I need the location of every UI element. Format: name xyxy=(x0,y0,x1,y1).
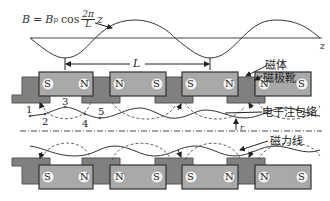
bottom-pole-letter: N xyxy=(80,172,89,182)
z-axis-label: z xyxy=(320,42,325,51)
top-pole-letter: N xyxy=(115,79,124,89)
formula-eq: = xyxy=(33,13,42,26)
path-point-label: 4 xyxy=(82,118,88,129)
top-pole-letter: S xyxy=(187,79,194,89)
bottom-pole-letter: S xyxy=(44,172,51,182)
formula-fraction: 2π L xyxy=(81,10,95,30)
formula-lhs: B xyxy=(22,13,30,26)
lower-field-arrows xyxy=(40,150,252,158)
field-formula: B = B p cos 2π L z xyxy=(22,10,103,30)
formula-var: z xyxy=(97,13,103,26)
pole-shoe-label: 磁极靴 xyxy=(263,73,296,84)
field-lines-label: 磁力线 xyxy=(270,136,303,147)
period-label: L xyxy=(133,58,140,69)
formula-amp-sub: p xyxy=(53,16,57,24)
top-pole-letter: N xyxy=(80,79,89,89)
top-pole-letter: S xyxy=(298,79,305,89)
beam-envelope-leader xyxy=(225,112,262,113)
top-pole-letter: S xyxy=(153,79,160,89)
path-point-label: 2 xyxy=(42,116,48,127)
bottom-pole-letter: S xyxy=(187,172,194,182)
bottom-pole-letter: S xyxy=(298,172,305,182)
path-points xyxy=(29,106,102,120)
top-pole-letter: S xyxy=(44,79,51,89)
formula-amp: B xyxy=(45,13,53,26)
formula-frac-den: L xyxy=(85,20,91,29)
path-point-label: 3 xyxy=(62,96,68,107)
bottom-pole-letter: N xyxy=(225,172,234,182)
bottom-pole-letter: S xyxy=(153,172,160,182)
top-pole-letter: N xyxy=(225,79,234,89)
bottom-pole-letter: N xyxy=(115,172,124,182)
radius-label: r xyxy=(240,124,244,132)
bottom-pole-letter: N xyxy=(260,172,269,182)
path-point-label: 5 xyxy=(98,106,104,117)
magnet-label: 磁体 xyxy=(265,60,287,71)
field-lines-leader xyxy=(240,141,268,150)
formula-func: cos xyxy=(61,13,79,26)
beam-envelope-label: 电子注包络 xyxy=(262,107,317,118)
path-point-label: 1 xyxy=(26,104,32,115)
